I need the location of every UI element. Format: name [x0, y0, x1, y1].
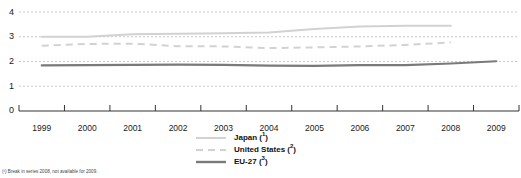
- legend-label-japan-text: Japan: [234, 133, 257, 142]
- x-tick-label-2006: 2006: [337, 123, 382, 133]
- y-tick-label-2: 2: [2, 57, 14, 66]
- legend-item-united-states: United States (2): [196, 145, 436, 155]
- y-tick-label-1: 1: [2, 82, 14, 91]
- y-tick-label-3: 3: [2, 32, 14, 41]
- gridlines: [19, 12, 519, 86]
- legend-label-eu-27: EU-27 (3): [234, 157, 268, 167]
- legend-swatch-dashed-light-icon: [196, 145, 226, 155]
- chart-legend: Japan (1) United States (2) EU-27 (3): [196, 133, 436, 169]
- legend-label-united-states-text: United States: [234, 145, 285, 154]
- x-axis-ticks: [19, 105, 519, 111]
- x-tick-label-2004: 2004: [246, 123, 291, 133]
- legend-marker-japan: 1: [262, 131, 265, 137]
- chart-footnote: (¹) Break in series 2008, not available …: [2, 169, 98, 175]
- legend-marker-eu-27: 3: [262, 155, 265, 161]
- series-line-united-states: [42, 42, 451, 48]
- legend-item-japan: Japan (1): [196, 133, 436, 143]
- x-axis: [19, 105, 519, 111]
- x-tick-label-2001: 2001: [110, 123, 155, 133]
- legend-marker-united-states: 2: [290, 143, 293, 149]
- legend-item-eu-27: EU-27 (3): [196, 157, 436, 167]
- x-tick-label-1999: 1999: [19, 123, 64, 133]
- line-chart: 4 3 2 1 0 199920002001200220032004200520…: [0, 0, 521, 178]
- x-tick-label-2003: 2003: [201, 123, 246, 133]
- legend-swatch-solid-dark-icon: [196, 157, 226, 167]
- series-lines: [42, 26, 497, 66]
- y-tick-label-0: 0: [2, 106, 14, 115]
- plot-svg: [0, 0, 521, 122]
- plot-area: 4 3 2 1 0: [0, 0, 521, 122]
- legend-label-japan: Japan (1): [234, 133, 268, 143]
- series-line-japan: [42, 26, 451, 37]
- x-tick-label-2008: 2008: [428, 123, 473, 133]
- x-tick-label-2009: 2009: [474, 123, 519, 133]
- x-tick-label-2005: 2005: [292, 123, 337, 133]
- x-tick-label-2007: 2007: [383, 123, 428, 133]
- x-tick-label-2002: 2002: [155, 123, 200, 133]
- legend-label-eu-27-text: EU-27: [234, 157, 257, 166]
- legend-label-united-states: United States (2): [234, 145, 296, 155]
- x-tick-label-2000: 2000: [64, 123, 109, 133]
- y-tick-label-4: 4: [2, 8, 14, 17]
- legend-swatch-solid-light-icon: [196, 133, 226, 143]
